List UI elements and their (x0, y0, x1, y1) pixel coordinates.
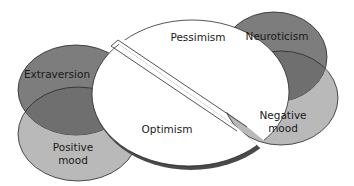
optimism-label: Optimism (142, 123, 193, 135)
divider-cap-top (111, 40, 118, 46)
positive-mood-label-line1: Positive (53, 141, 93, 153)
venn-diagram: Extraversion Positive mood Pessimism Opt… (0, 0, 354, 186)
neuroticism-label: Neuroticism (246, 30, 309, 42)
extraversion-label: Extraversion (24, 68, 90, 80)
negative-mood-label-line1: Negative (259, 109, 306, 121)
negative-mood-label-line2: mood (268, 122, 298, 134)
positive-mood-label-line2: mood (58, 154, 88, 166)
pessimism-label: Pessimism (170, 31, 225, 43)
